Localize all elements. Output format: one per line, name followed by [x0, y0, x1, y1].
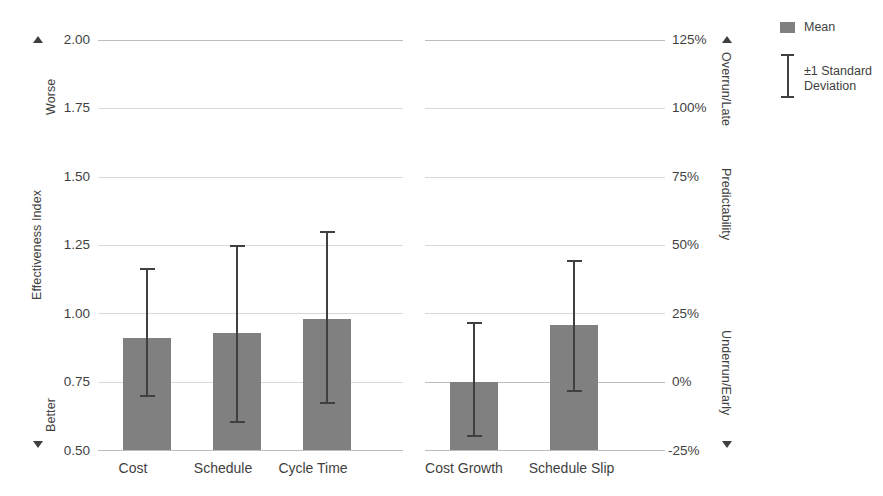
- left-axis-title: Effectiveness Index: [30, 190, 44, 300]
- errorbar-cap-top: [140, 268, 155, 270]
- right-ytick-125pct: 125%: [672, 33, 707, 47]
- left-ytick-125: 1.25: [44, 238, 90, 252]
- gridline-050-axis: [98, 450, 403, 451]
- right-axis-underrun-label: Underrun/Early: [719, 330, 733, 415]
- predictability-plot: [425, 40, 665, 450]
- left-ytick-100: 1.00: [44, 307, 90, 321]
- errorbar-cap-top: [567, 260, 582, 262]
- right-ytick-0pct: 0%: [672, 375, 692, 389]
- xtick-cycle-time: Cycle Time: [263, 460, 363, 476]
- left-ytick-050: 0.50: [44, 444, 90, 458]
- legend-errorbar-cap-top: [781, 54, 794, 56]
- right-ytick-25pct: 25%: [672, 307, 699, 321]
- legend-errorbar-icon: [780, 54, 795, 98]
- gridline-75pct: [425, 177, 665, 178]
- gridline-50pct: [425, 245, 665, 246]
- effectiveness-index-plot: [98, 40, 403, 450]
- left-axis-better-label: Better: [44, 398, 58, 432]
- gridline-100pct: [425, 108, 665, 109]
- errorbar-stem: [236, 245, 238, 423]
- legend-errorbar-cap-bottom: [781, 96, 794, 98]
- errorbar-stem: [473, 322, 475, 437]
- left-ytick-150: 1.50: [44, 170, 90, 184]
- errorbar-cap-bottom: [230, 421, 245, 423]
- better-arrow-icon: [33, 441, 43, 448]
- errorbar-cap-top: [467, 322, 482, 324]
- right-ytick-100pct: 100%: [672, 101, 707, 115]
- errorbar-cap-bottom: [567, 390, 582, 392]
- chart-legend: Mean ±1 Standard Deviation: [780, 20, 883, 116]
- gridline-neg25pct-axis: [425, 450, 665, 451]
- overrun-arrow-icon: [722, 36, 732, 43]
- right-axis-title: Predictability: [719, 168, 733, 240]
- errorbar-cap-bottom: [140, 395, 155, 397]
- gridline-25pct: [425, 313, 665, 314]
- legend-mean-swatch-icon: [780, 22, 795, 33]
- xtick-schedule-slip: Schedule Slip: [514, 460, 629, 476]
- left-ytick-175: 1.75: [44, 101, 90, 115]
- underrun-arrow-icon: [722, 441, 732, 448]
- errorbar-cap-top: [320, 231, 335, 233]
- gridline-150: [98, 177, 403, 178]
- errorbar-stem: [573, 260, 575, 392]
- legend-errorbar-stem: [787, 54, 789, 98]
- right-axis-overrun-label: Overrun/Late: [719, 52, 733, 126]
- left-ytick-075: 0.75: [44, 375, 90, 389]
- errorbar-cap-bottom: [467, 435, 482, 437]
- xtick-cost: Cost: [83, 460, 183, 476]
- legend-mean-label: Mean: [804, 20, 835, 35]
- right-ytick-50pct: 50%: [672, 238, 699, 252]
- right-ytick-neg25pct: -25%: [668, 444, 700, 458]
- worse-arrow-icon: [33, 36, 43, 43]
- gridline-200: [98, 40, 403, 41]
- xtick-schedule: Schedule: [173, 460, 273, 476]
- gridline-125: [98, 245, 403, 246]
- errorbar-stem: [146, 268, 148, 397]
- xtick-cost-growth: Cost Growth: [409, 460, 519, 476]
- gridline-125pct: [425, 40, 665, 41]
- right-ytick-75pct: 75%: [672, 170, 699, 184]
- gridline-100: [98, 313, 403, 314]
- left-ytick-200: 2.00: [44, 33, 90, 47]
- errorbar-cap-top: [230, 245, 245, 247]
- chart-canvas: Worse Effectiveness Index Better 2.00 1.…: [0, 0, 883, 496]
- legend-item-mean[interactable]: Mean: [780, 20, 883, 38]
- legend-stddev-label: ±1 Standard Deviation: [804, 64, 872, 93]
- legend-item-stddev[interactable]: ±1 Standard Deviation: [780, 54, 883, 100]
- errorbar-stem: [326, 231, 328, 404]
- gridline-175: [98, 108, 403, 109]
- errorbar-cap-bottom: [320, 402, 335, 404]
